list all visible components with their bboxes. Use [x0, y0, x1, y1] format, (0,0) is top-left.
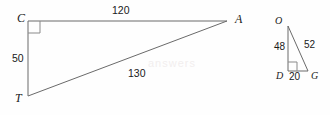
vertex-label-t: T [15, 92, 22, 104]
vertex-label-c: C [17, 12, 25, 24]
vertex-label-a: A [235, 13, 242, 25]
side-length-ct: 50 [12, 53, 24, 64]
vertex-label-g: G [311, 71, 318, 81]
side-length-og: 52 [304, 40, 315, 50]
side-length-ta: 130 [128, 68, 146, 79]
vertex-label-o: O [275, 16, 282, 26]
side-length-ca: 120 [112, 5, 130, 16]
vertex-label-d: D [276, 71, 283, 81]
side-length-od: 48 [274, 42, 285, 52]
geometry-figure-page: answers C A T 120 50 130 O D G 48 52 20 [0, 0, 330, 115]
triangle-cat-shape [28, 21, 227, 96]
side-length-dg: 20 [289, 72, 300, 82]
right-angle-marker-c [28, 21, 40, 33]
segment-ta [28, 21, 227, 96]
